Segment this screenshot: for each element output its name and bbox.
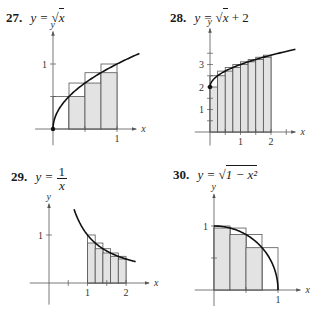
x-axis-label: x [153,277,159,288]
lower-rectangle [69,97,85,130]
lower-rectangle [118,259,126,283]
lower-rectangle [214,228,230,290]
lower-rectangle [248,62,256,132]
y-tick-label: 1 [199,104,204,115]
x-axis-label: x [140,123,146,134]
lower-rectangle [85,83,101,129]
graph-30: xy11 [195,181,311,306]
y-axis-label: y [50,19,56,30]
graphs-canvas: xy11 xy12123 xy121 xy11 [0,0,322,320]
x-axis-label: x [299,126,305,137]
y-axis-label: y [207,16,213,27]
graph-28: xy12123 [195,16,306,148]
x-tick-label: 1 [276,294,281,305]
y-tick-label: 2 [199,82,204,93]
lower-rectangle [263,57,271,132]
lower-rectangle [111,256,119,283]
x-axis-label: x [304,284,310,295]
lower-rectangle [88,243,96,283]
y-tick-label: 1 [42,59,47,70]
y-tick-label: 1 [38,230,43,241]
lower-rectangle [241,65,249,133]
graph-29: xy121 [30,191,159,305]
lower-rectangle [103,253,111,283]
lower-rectangle [230,235,246,290]
y-tick-label: 1 [203,221,208,232]
lower-rectangle [246,248,262,290]
lower-rectangle [101,73,117,129]
upper-rectangle [53,97,69,130]
x-tick-label: 1 [115,133,120,144]
y-axis-label: y [211,181,217,192]
lower-rectangle [218,76,226,132]
y-axis-label: y [46,191,52,202]
x-tick-label: 2 [269,136,274,147]
graph-27: xy11 [35,19,146,146]
lower-rectangle [256,59,264,132]
x-tick-label: 2 [124,287,129,298]
x-tick-label: 1 [238,136,243,147]
lower-rectangle [233,68,241,132]
upper-rectangle [262,248,278,290]
lower-rectangle [225,71,233,132]
y-tick-label: 3 [199,59,204,70]
endpoint-dot [51,127,55,131]
endpoint-dot [208,85,212,89]
lower-rectangle [95,249,103,283]
x-tick-label: 1 [85,287,90,298]
